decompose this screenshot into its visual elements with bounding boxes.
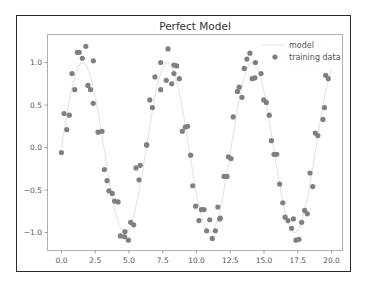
data-point: [88, 87, 93, 92]
data-point: [213, 228, 218, 233]
data-point: [269, 138, 274, 143]
data-point: [177, 76, 182, 81]
data-point: [83, 44, 88, 49]
data-point: [299, 220, 304, 225]
legend: model training data: [262, 41, 341, 62]
data-point: [180, 129, 185, 134]
y-tick-label: −0.5: [24, 186, 42, 195]
data-point: [61, 111, 66, 116]
x-tick-label: 7.5: [157, 256, 169, 265]
data-point: [158, 87, 163, 92]
data-point: [201, 207, 206, 212]
data-point: [102, 167, 107, 172]
data-point: [59, 150, 64, 155]
x-tick-label: 20.0: [323, 256, 340, 265]
data-point: [196, 218, 201, 223]
data-point: [310, 184, 315, 189]
x-tick-label: 0.0: [56, 256, 68, 265]
data-point: [174, 63, 179, 68]
data-point: [315, 133, 320, 138]
x-tick-label: 17.5: [289, 256, 306, 265]
x-tick-label: 10.0: [188, 256, 205, 265]
chart-title: Perfect Model: [159, 20, 231, 32]
data-point: [99, 129, 104, 134]
data-point: [231, 114, 236, 119]
data-point: [69, 71, 74, 76]
data-point: [242, 66, 247, 71]
data-point: [247, 51, 252, 56]
data-point: [115, 199, 120, 204]
data-point: [228, 156, 233, 161]
data-point: [126, 238, 131, 243]
data-point: [320, 117, 325, 122]
training-data-points: [59, 44, 331, 243]
x-tick-label: 15.0: [256, 256, 273, 265]
legend-label-training-data: training data: [289, 53, 341, 62]
data-point: [224, 174, 229, 179]
data-point: [267, 113, 272, 118]
data-point: [171, 71, 176, 76]
x-tick-label: 5.0: [123, 256, 135, 265]
data-point: [190, 183, 195, 188]
data-point: [131, 222, 136, 227]
data-point: [264, 100, 269, 105]
data-point: [91, 58, 96, 63]
scatter-chart: Perfect Model 0.02.55.07.510.012.515.017…: [0, 0, 366, 288]
data-point: [188, 153, 193, 158]
data-point: [204, 228, 209, 233]
data-point: [285, 218, 290, 223]
data-point: [147, 97, 152, 102]
axes-box: [48, 35, 343, 251]
legend-label-model: model: [289, 41, 314, 50]
data-point: [207, 217, 212, 222]
data-point: [252, 75, 257, 80]
data-point: [67, 113, 72, 118]
x-tick-label: 12.5: [222, 256, 239, 265]
data-point: [253, 60, 258, 65]
data-point: [244, 57, 249, 62]
data-point: [193, 204, 198, 209]
legend-training-data-marker: [272, 54, 277, 59]
y-tick-label: 0.5: [30, 101, 42, 110]
x-tick-label: 2.5: [89, 256, 101, 265]
data-point: [280, 200, 285, 205]
data-point: [64, 127, 69, 132]
data-point: [277, 181, 282, 186]
y-tick-label: 0.0: [30, 143, 42, 152]
data-point: [322, 105, 327, 110]
data-point: [305, 211, 310, 216]
data-point: [164, 78, 169, 83]
y-axis-ticks: −1.0−0.50.00.51.0: [24, 58, 48, 237]
data-point: [307, 170, 312, 175]
data-point: [138, 163, 143, 168]
data-point: [165, 46, 170, 51]
data-point: [169, 81, 174, 86]
data-point: [239, 95, 244, 100]
data-point: [104, 178, 109, 183]
data-point: [91, 101, 96, 106]
data-point: [210, 236, 215, 241]
data-point: [289, 226, 294, 231]
data-point: [218, 215, 223, 220]
data-point: [158, 60, 163, 65]
data-point: [296, 237, 301, 242]
data-point: [122, 234, 127, 239]
data-point: [326, 76, 331, 81]
data-point: [110, 191, 115, 196]
data-point: [258, 71, 263, 76]
data-point: [152, 74, 157, 79]
data-point: [274, 152, 279, 157]
data-point: [122, 229, 127, 234]
data-point: [150, 105, 155, 110]
y-tick-label: 1.0: [30, 58, 42, 67]
x-axis-ticks: 0.02.55.07.510.012.515.017.520.0: [56, 251, 341, 266]
data-point: [291, 216, 296, 221]
data-point: [77, 50, 82, 55]
data-point: [237, 85, 242, 90]
data-point: [144, 142, 149, 147]
data-point: [136, 177, 141, 182]
data-point: [80, 56, 85, 61]
y-tick-label: −1.0: [24, 228, 42, 237]
data-point: [185, 124, 190, 129]
data-point: [215, 204, 220, 209]
